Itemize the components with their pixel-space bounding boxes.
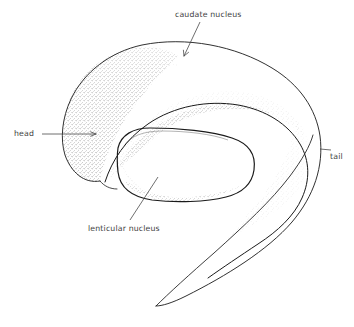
anatomical-figure: caudate nucleus head tail lenticular nuc… (0, 0, 354, 327)
leader-tail (320, 149, 331, 150)
label-head: head (14, 130, 34, 138)
label-lenticular-nucleus: lenticular nucleus (88, 225, 160, 233)
label-caudate-nucleus: caudate nucleus (175, 11, 241, 19)
tail-shoulder-stipple-shading (222, 118, 310, 242)
label-tail: tail (330, 153, 343, 161)
caudate-nucleus-shape (62, 42, 321, 306)
head-lenticular-crease (100, 181, 117, 189)
inner-band-stipple-shading (108, 91, 303, 180)
leader-caudate-nucleus (183, 22, 200, 56)
caudate-lenticular-drawing (0, 0, 354, 327)
